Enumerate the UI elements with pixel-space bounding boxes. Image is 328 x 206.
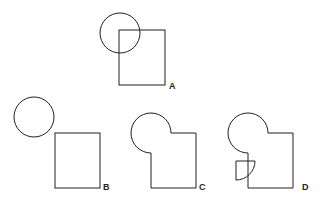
figure-a: A: [100, 13, 176, 91]
figure-label-c: C: [199, 182, 206, 192]
figure-c: C: [131, 113, 206, 192]
circle-b: [14, 97, 54, 137]
pacman-rect-union-d: [228, 113, 293, 188]
circle-a: [100, 13, 140, 53]
figure-label-a: A: [169, 81, 176, 91]
figure-label-b: B: [103, 182, 110, 192]
geometry-canvas: A B C D: [0, 0, 328, 206]
figure-label-d: D: [302, 182, 309, 192]
rect-b: [55, 133, 100, 188]
detached-quarter-wedge-d: [236, 161, 255, 180]
pacman-rect-union-c: [131, 113, 196, 188]
rect-a: [119, 30, 165, 85]
figure-b: B: [14, 97, 110, 192]
figure-d: D: [228, 113, 309, 192]
